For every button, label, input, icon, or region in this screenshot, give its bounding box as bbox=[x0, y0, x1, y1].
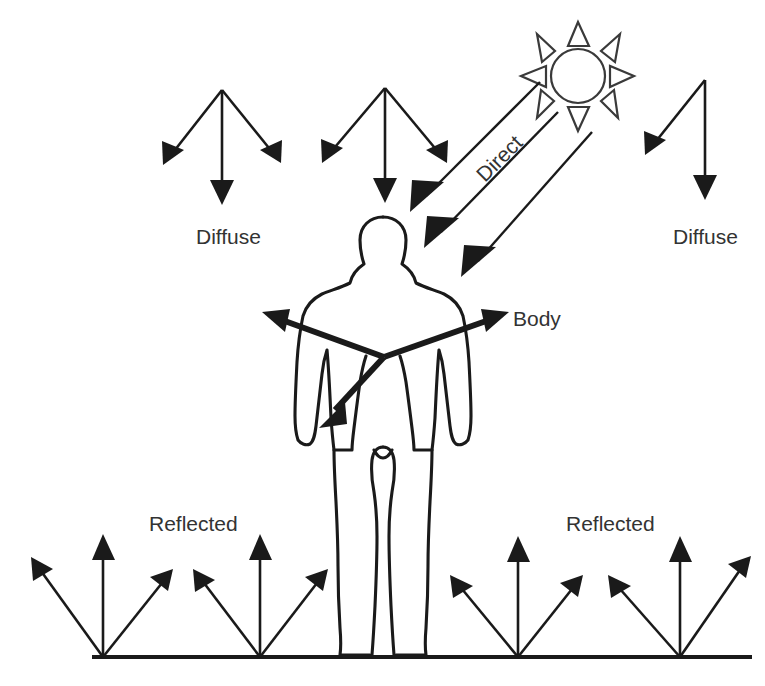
refl2-shaft-1 bbox=[204, 583, 260, 657]
refl3-head-3 bbox=[560, 575, 583, 597]
sun-ray-w bbox=[521, 66, 546, 87]
refl4-head-1 bbox=[608, 575, 631, 598]
label-reflected-left: Reflected bbox=[149, 512, 238, 535]
diffuse-right-group bbox=[644, 80, 717, 200]
diffuse-left-arrow-shaft-3 bbox=[222, 90, 273, 153]
reflected-group-4 bbox=[608, 536, 751, 657]
diffuse-mid-arrow-shaft-3 bbox=[385, 88, 439, 153]
sun-disc bbox=[551, 49, 605, 103]
label-body: Body bbox=[513, 307, 561, 330]
figure-left-outer-leg bbox=[334, 450, 370, 655]
refl2-head-3 bbox=[305, 569, 328, 591]
diffuse-left-arrow-head-2 bbox=[210, 180, 234, 205]
diffuse-mid-arrow-head-2 bbox=[373, 178, 397, 203]
refl1-shaft-3 bbox=[103, 583, 162, 657]
refl2-shaft-3 bbox=[260, 583, 317, 657]
refl1-head-2 bbox=[92, 534, 115, 560]
refl4-shaft-3 bbox=[680, 570, 740, 657]
sun-rays bbox=[521, 22, 634, 131]
sun-ray-sw bbox=[537, 90, 554, 118]
sun-ray-e bbox=[610, 66, 634, 87]
refl1-head-3 bbox=[150, 569, 173, 591]
direct-arrow-head-3 bbox=[461, 245, 496, 277]
diffuse-right-arrow-shaft-1 bbox=[653, 80, 705, 145]
sun-ray-nw bbox=[537, 34, 555, 62]
diffuse-mid-arrow-shaft-1 bbox=[330, 88, 385, 153]
solar-radiation-diagram: Diffuse Diffuse Direct Body Reflected Re… bbox=[0, 0, 765, 686]
figure-right-outer-leg bbox=[396, 450, 432, 655]
refl3-shaft-1 bbox=[462, 589, 518, 657]
diffuse-mid-arrow-head-3 bbox=[426, 140, 448, 163]
refl4-head-3 bbox=[728, 556, 751, 578]
body-arrow-shaft-3 bbox=[335, 357, 384, 410]
diagram-canvas: Diffuse Diffuse Direct Body Reflected Re… bbox=[0, 0, 765, 686]
direct-arrow-head-1 bbox=[410, 180, 444, 212]
direct-arrow-head-2 bbox=[424, 216, 459, 248]
label-direct: Direct bbox=[472, 131, 527, 186]
reflected-group-1 bbox=[31, 534, 173, 657]
refl3-head-2 bbox=[507, 536, 530, 562]
sun-ray-se bbox=[601, 90, 618, 118]
label-diffuse-left: Diffuse bbox=[196, 225, 261, 248]
diffuse-right-arrow-head-2 bbox=[693, 175, 717, 200]
refl1-head-1 bbox=[31, 557, 53, 581]
figure-right-inner-leg bbox=[383, 447, 394, 655]
label-reflected-right: Reflected bbox=[566, 512, 655, 535]
body-arrow-head-3 bbox=[319, 402, 347, 428]
sun-ray-s bbox=[568, 107, 589, 131]
reflected-group-3 bbox=[450, 536, 583, 657]
diffuse-left-group bbox=[162, 90, 282, 205]
refl4-shaft-1 bbox=[620, 589, 680, 657]
direct-rays-group bbox=[410, 82, 592, 277]
refl3-shaft-3 bbox=[518, 589, 572, 657]
figure-left-inner-leg bbox=[372, 447, 383, 655]
refl3-head-1 bbox=[450, 575, 473, 598]
body-arrow-head-2 bbox=[481, 309, 509, 332]
refl4-head-2 bbox=[669, 536, 692, 562]
sun-ray-ne bbox=[601, 34, 620, 62]
refl1-shaft-1 bbox=[41, 571, 103, 657]
refl2-head-1 bbox=[193, 569, 215, 592]
sun-ray-n bbox=[568, 22, 589, 46]
reflected-group-2 bbox=[193, 534, 328, 657]
diffuse-left-arrow-shaft-1 bbox=[171, 90, 222, 155]
label-diffuse-right: Diffuse bbox=[673, 225, 738, 248]
sun-icon bbox=[521, 22, 634, 131]
diffuse-left-arrow-head-3 bbox=[260, 140, 282, 163]
body-arrow-head-1 bbox=[262, 309, 290, 332]
body-arrow-shaft-2 bbox=[384, 320, 489, 357]
refl2-head-2 bbox=[249, 534, 272, 560]
